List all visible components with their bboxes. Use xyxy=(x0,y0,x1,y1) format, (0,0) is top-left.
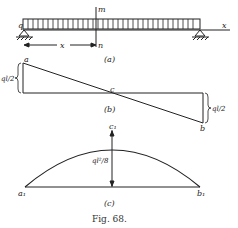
label-a: a xyxy=(24,55,29,64)
label-b: b xyxy=(200,124,205,133)
label-x: x xyxy=(60,41,65,50)
right-shear-value: ql/2 xyxy=(212,105,226,113)
panel-a-label: (a) xyxy=(104,55,115,64)
label-c1: c₁ xyxy=(109,122,117,131)
label-n: n xyxy=(98,41,103,50)
max-moment-value: ql²/8 xyxy=(92,157,109,165)
panel-c-label: (c) xyxy=(104,199,115,208)
label-a1: a₁ xyxy=(18,189,26,198)
label-axis-x: x xyxy=(222,21,227,30)
label-c: c xyxy=(110,85,115,94)
beam-diagram xyxy=(16,7,230,47)
left-shear-value: ql/2 xyxy=(1,75,15,83)
right-pin-support xyxy=(192,30,209,40)
figure-68: m q x x n (a) a c b ql/2 ql/2 (b) c₁ ql²… xyxy=(0,0,238,228)
label-m: m xyxy=(98,5,106,14)
figure-caption: Fig. 68. xyxy=(92,214,127,224)
bending-moment-diagram xyxy=(25,130,200,187)
left-pin-support xyxy=(16,30,33,40)
panel-b-label: (b) xyxy=(104,105,115,114)
label-b1: b₁ xyxy=(197,189,205,198)
distributed-load-hatching xyxy=(28,19,193,29)
label-q: q xyxy=(18,21,23,30)
